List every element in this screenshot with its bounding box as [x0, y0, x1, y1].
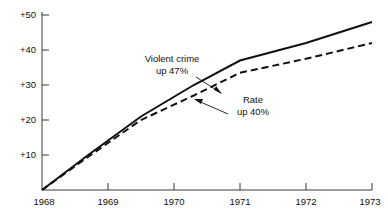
- x-tick-label-1969: 1969: [97, 196, 118, 207]
- y-tick-label-10: +10: [20, 149, 36, 160]
- rate-annotation-line1: Rate: [243, 94, 263, 105]
- violent-crime-annotation-line1: Violent crime: [145, 53, 200, 64]
- y-axis-ticks: [42, 15, 49, 155]
- violent-crime-annotation-line2: up 47%: [156, 65, 189, 76]
- y-tick-label-30: +30: [20, 79, 36, 90]
- x-tick-label-1970: 1970: [163, 196, 184, 207]
- series-line-violent-crime: [42, 22, 372, 190]
- x-tick-label-1972: 1972: [295, 196, 316, 207]
- rate-annotation-line2: up 40%: [237, 106, 270, 117]
- chart-container: +50 +40 +30 +20 +10 1968 1969 1970 1971 …: [0, 0, 388, 211]
- y-tick-label-40: +40: [20, 44, 36, 55]
- rate-leader-arrow: [194, 99, 203, 104]
- line-chart: +50 +40 +30 +20 +10 1968 1969 1970 1971 …: [0, 0, 388, 211]
- x-axis-tick-labels: 1968 1969 1970 1971 1972 1973: [33, 196, 380, 207]
- y-axis-tick-labels: +50 +40 +30 +20 +10: [20, 9, 36, 160]
- violent-crime-leader-arrow: [214, 86, 222, 94]
- y-tick-label-50: +50: [20, 9, 36, 20]
- x-tick-label-1973: 1973: [359, 196, 380, 207]
- x-tick-label-1971: 1971: [229, 196, 250, 207]
- x-axis-ticks: [108, 183, 372, 190]
- x-tick-label-1968: 1968: [33, 196, 54, 207]
- series-line-rate: [42, 43, 372, 190]
- violent-crime-annotation: Violent crime up 47%: [145, 53, 222, 94]
- y-tick-label-20: +20: [20, 114, 36, 125]
- rate-annotation: Rate up 40%: [194, 94, 270, 117]
